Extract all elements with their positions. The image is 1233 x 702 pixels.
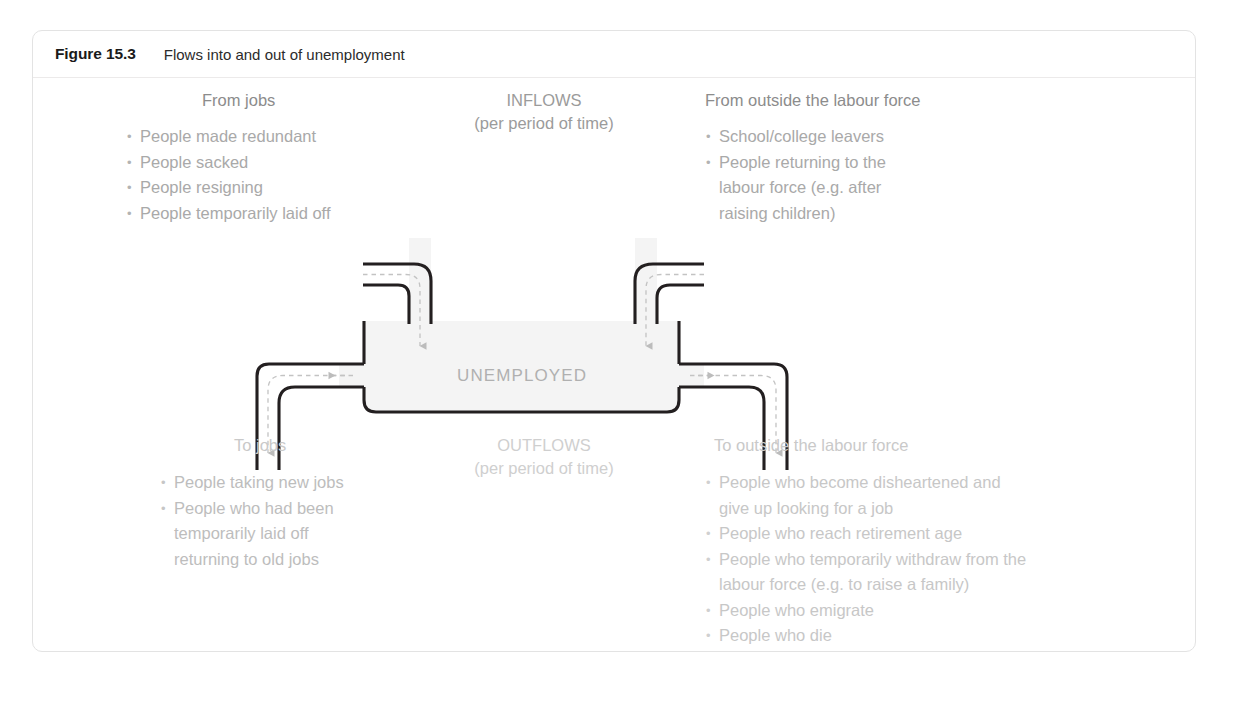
list-item-line: People who die	[719, 626, 832, 644]
list-item-line: People who emigrate	[719, 601, 874, 619]
from-jobs-heading: From jobs	[202, 91, 275, 110]
from-outside-heading: From outside the labour force	[705, 91, 921, 110]
list-item: People who reach retirement age	[706, 521, 1126, 547]
outflows-subtitle: (per period of time)	[444, 457, 644, 480]
inflows-label: INFLOWS (per period of time)	[444, 89, 644, 135]
inflows-title: INFLOWS	[506, 91, 581, 109]
unemployed-label: UNEMPLOYED	[457, 366, 587, 386]
list-item-line: labour force (e.g. after	[719, 175, 1026, 201]
list-item-line: People who had been	[174, 499, 334, 517]
from-outside-list: School/college leavers People returning …	[706, 124, 1026, 226]
figure-caption: Flows into and out of unemployment	[164, 46, 405, 63]
list-item-line: People who temporarily withdraw from the	[719, 550, 1026, 568]
list-item: People who die	[706, 623, 1126, 649]
from-jobs-list: People made redundant People sacked Peop…	[127, 124, 427, 226]
list-item: People made redundant	[127, 124, 427, 150]
list-item-line: School/college leavers	[719, 127, 884, 145]
list-item: People who temporarily withdraw from the…	[706, 547, 1126, 598]
to-jobs-heading: To jobs	[234, 436, 286, 455]
to-outside-list: People who become disheartened and give …	[706, 470, 1126, 649]
list-item: School/college leavers	[706, 124, 1026, 150]
list-item: People who become disheartened and give …	[706, 470, 1126, 521]
list-item: People taking new jobs	[161, 470, 461, 496]
list-item-line: People who reach retirement age	[719, 524, 962, 542]
figure-header: Figure 15.3 Flows into and out of unempl…	[33, 31, 1195, 78]
list-item: People temporarily laid off	[127, 201, 427, 227]
list-item: People sacked	[127, 150, 427, 176]
list-item-line: People taking new jobs	[174, 473, 344, 491]
figure-number: Figure 15.3	[55, 45, 136, 63]
list-item-line: raising children)	[719, 201, 1026, 227]
list-item: People who had been temporarily laid off…	[161, 496, 461, 573]
list-item: People resigning	[127, 175, 427, 201]
list-item-line: temporarily laid off	[174, 521, 461, 547]
figure-card: Figure 15.3 Flows into and out of unempl…	[32, 30, 1196, 652]
outflows-label: OUTFLOWS (per period of time)	[444, 434, 644, 480]
list-item-line: give up looking for a job	[719, 496, 1126, 522]
list-item: People returning to the labour force (e.…	[706, 150, 1026, 227]
inflows-subtitle: (per period of time)	[444, 112, 644, 135]
list-item-line: returning to old jobs	[174, 547, 461, 573]
list-item-line: People who become disheartened and	[719, 473, 1001, 491]
to-jobs-list: People taking new jobs People who had be…	[161, 470, 461, 572]
list-item: People who emigrate	[706, 598, 1126, 624]
to-outside-heading: To outside the labour force	[714, 436, 908, 455]
flow-diagram: UNEMPLOYED From jobs People made redunda…	[33, 78, 1195, 651]
list-item-line: People returning to the	[719, 153, 886, 171]
outflows-title: OUTFLOWS	[497, 436, 591, 454]
list-item-line: labour force (e.g. to raise a family)	[719, 572, 1126, 598]
